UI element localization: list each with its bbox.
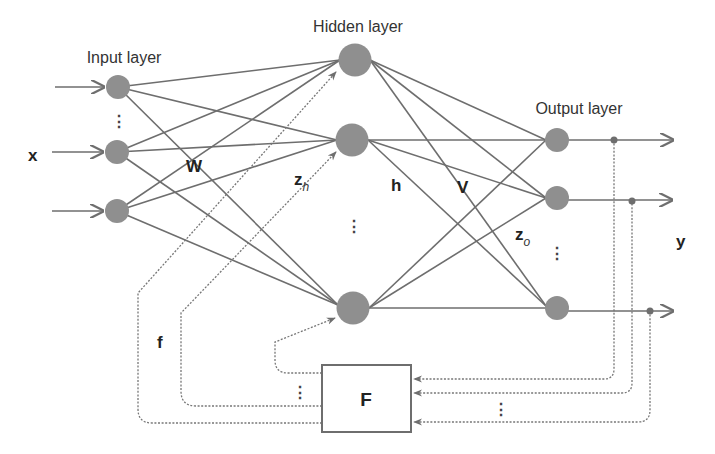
hidden-output-label: h bbox=[391, 176, 401, 195]
input-node-3 bbox=[105, 199, 129, 223]
output-layer-title: Output layer bbox=[535, 100, 623, 117]
hidden-layer-title: Hidden layer bbox=[313, 18, 404, 35]
output-arrows bbox=[568, 140, 673, 311]
output-node-2 bbox=[545, 186, 569, 210]
output-preactivation-label: zo bbox=[515, 225, 531, 249]
hidden-node-3 bbox=[337, 292, 370, 325]
hidden-node-2 bbox=[336, 124, 369, 157]
input-nodes bbox=[105, 75, 130, 223]
output-node-3 bbox=[545, 296, 569, 320]
output-node-1 bbox=[545, 128, 569, 152]
input-node-2 bbox=[105, 140, 129, 164]
feedback-signal-label: f bbox=[157, 333, 163, 352]
neural-network-diagram: F Input layer Hidden layer Output layer … bbox=[0, 0, 715, 454]
feedback-f-paths bbox=[138, 72, 336, 423]
tap-dot-3 bbox=[647, 308, 654, 315]
weights-v-label: V bbox=[457, 178, 469, 197]
input-ellipsis: ⋮ bbox=[111, 113, 127, 130]
input-layer-title: Input layer bbox=[87, 49, 162, 66]
tap-dot-2 bbox=[629, 198, 636, 205]
input-node-1 bbox=[106, 75, 130, 99]
feedback-return-paths bbox=[414, 137, 654, 423]
output-ellipsis: ⋮ bbox=[549, 245, 565, 262]
feedback-out-ellipsis: ⋮ bbox=[292, 384, 308, 401]
output-nodes bbox=[545, 128, 569, 320]
hidden-nodes bbox=[336, 44, 372, 325]
weights-w-label: W bbox=[186, 157, 203, 176]
output-vector-label: y bbox=[676, 232, 686, 251]
hidden-node-1 bbox=[339, 44, 372, 77]
hidden-preactivation-label: zh bbox=[294, 170, 310, 194]
input-arrows bbox=[52, 87, 104, 211]
input-vector-label: x bbox=[28, 146, 38, 165]
tap-dot-1 bbox=[611, 137, 618, 144]
feedback-in-ellipsis: ⋮ bbox=[493, 401, 509, 418]
hidden-ellipsis: ⋮ bbox=[346, 218, 362, 235]
feedback-block-label: F bbox=[360, 389, 372, 410]
